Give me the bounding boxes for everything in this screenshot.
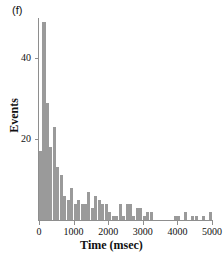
x-axis-tick-label: 1000 bbox=[57, 226, 91, 237]
x-axis-tick-label: 2000 bbox=[91, 226, 125, 237]
x-axis-label: Time (msec) bbox=[0, 238, 223, 253]
x-axis-line bbox=[38, 220, 213, 221]
x-axis-tick bbox=[177, 221, 178, 225]
x-axis-tick bbox=[143, 221, 144, 225]
plot-area: 2040010002000300040005000 bbox=[0, 0, 223, 254]
y-axis-tick-label: 20 bbox=[9, 133, 31, 144]
y-axis-tick-label: 40 bbox=[9, 52, 31, 63]
y-axis-tick bbox=[35, 58, 39, 59]
histogram-bar bbox=[177, 216, 180, 220]
x-axis-tick-label: 3000 bbox=[126, 226, 160, 237]
histogram-figure: (f) Events 2040010002000300040005000 Tim… bbox=[0, 0, 223, 254]
x-axis-tick bbox=[212, 221, 213, 225]
x-axis-tick bbox=[108, 221, 109, 225]
histogram-bar bbox=[209, 212, 212, 220]
x-axis-tick bbox=[74, 221, 75, 225]
histogram-bar bbox=[202, 216, 205, 220]
y-axis-tick bbox=[35, 139, 39, 140]
histogram-bar bbox=[150, 212, 153, 220]
x-axis-tick-label: 0 bbox=[22, 226, 56, 237]
histogram-bar bbox=[195, 216, 198, 220]
x-axis-tick-label: 4000 bbox=[160, 226, 194, 237]
x-axis-tick-label: 5000 bbox=[195, 226, 223, 237]
histogram-bar bbox=[184, 212, 187, 220]
x-axis-tick bbox=[39, 221, 40, 225]
